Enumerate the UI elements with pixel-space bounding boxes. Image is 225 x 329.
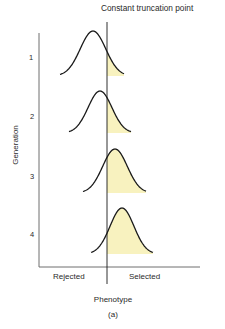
generation-label-4: 4	[30, 230, 34, 239]
truncation-selection-diagram: Constant truncation point 1 2 3 4 Genera…	[0, 0, 225, 329]
generation-label-1: 1	[29, 53, 33, 62]
distribution-curves	[60, 31, 153, 252]
truncation-label: Constant truncation point	[101, 3, 194, 13]
generation-label-2: 2	[30, 112, 34, 121]
selected-area-fills	[107, 52, 153, 254]
distribution-curve-2	[69, 91, 131, 132]
selected-area-3	[107, 149, 146, 193]
y-axis-label: Generation	[11, 125, 20, 165]
selected-area-2	[107, 98, 131, 133]
x-axis-label: Phenotype	[94, 295, 133, 304]
selected-label: Selected	[129, 272, 160, 281]
generation-label-3: 3	[30, 172, 34, 181]
figure-caption: (a)	[108, 310, 118, 319]
rejected-label: Rejected	[53, 272, 85, 281]
